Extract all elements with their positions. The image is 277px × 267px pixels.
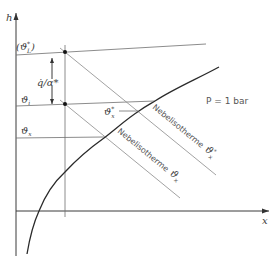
label-fog-isotherm-theta-x-star: Nebelisothermeϑ*x [149, 100, 219, 161]
label-theta-x-star-inner: ϑ*x [104, 105, 115, 119]
svg-text:P = 1 bar: P = 1 bar [206, 96, 249, 106]
svg-text:ϑ*x: ϑ*x [104, 105, 115, 119]
svg-text:ϑi: ϑi [21, 94, 30, 106]
svg-text:q̇/α*: q̇/α* [37, 77, 59, 88]
h-x-diagram: h x (ϑ*L) ϑi ϑx q̇/α* ϑ*x P = 1 bar Nebe… [0, 0, 277, 267]
state-point-upper [63, 50, 67, 54]
isotherm-theta-i [16, 101, 155, 106]
svg-text:ϑx: ϑx [21, 125, 32, 137]
label-pressure: P = 1 bar [206, 96, 249, 106]
label-theta-L-star: (ϑ*L) [16, 40, 35, 54]
label-fog-isotherm-theta-x: Nebelisothermeϑx [115, 125, 183, 184]
state-point-lower [63, 102, 67, 106]
label-theta-x: ϑx [21, 125, 32, 137]
isotherm-theta-x [16, 137, 104, 138]
label-heat-flux-over-alpha: q̇/α* [37, 77, 59, 88]
svg-text:Nebelisothermeϑ*x: Nebelisothermeϑ*x [149, 100, 219, 161]
svg-text:Nebelisothermeϑx: Nebelisothermeϑx [115, 125, 183, 184]
saturation-curve [27, 67, 219, 254]
x-axis-label: x [262, 215, 268, 226]
label-theta-i: ϑi [21, 94, 30, 106]
svg-text:(ϑ*L): (ϑ*L) [16, 40, 35, 54]
h-axis-label: h [6, 12, 12, 23]
isotherm-theta-L-star [16, 44, 206, 55]
